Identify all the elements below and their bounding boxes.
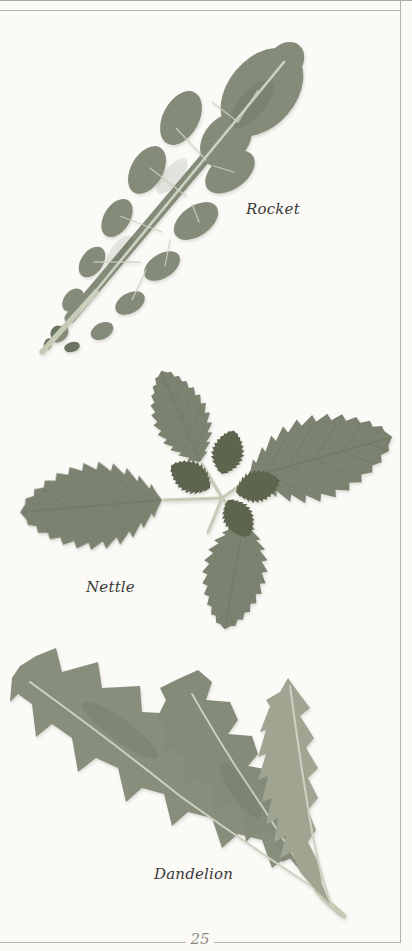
nettle-caption: Nettle (86, 578, 135, 596)
book-page: Rocket Nettle Dandelion 25 (0, 0, 412, 951)
rocket-leaf-illustration (42, 32, 320, 354)
nettle-leaf-left (16, 456, 166, 555)
dandelion-caption: Dandelion (154, 865, 233, 883)
nettle-plant-illustration (16, 360, 404, 635)
botanical-illustrations (0, 0, 412, 951)
rocket-caption: Rocket (246, 200, 300, 218)
nettle-leaf-bottom (193, 514, 276, 634)
page-number: 25 (178, 930, 222, 948)
